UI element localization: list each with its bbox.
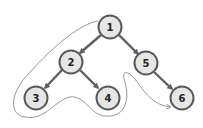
- svg-text:6: 6: [179, 93, 186, 104]
- svg-text:1: 1: [107, 22, 114, 33]
- node-4: 4: [97, 87, 120, 110]
- node-2: 2: [60, 51, 83, 74]
- edge-1-2: [80, 35, 101, 53]
- tree-diagram: 1 2 3 4 5 6: [0, 0, 203, 128]
- node-3: 3: [25, 87, 48, 110]
- edge-5-6: [154, 72, 172, 89]
- edge-1-5: [119, 35, 138, 54]
- svg-text:3: 3: [33, 93, 40, 104]
- node-5: 5: [135, 52, 158, 75]
- svg-text:2: 2: [68, 57, 75, 68]
- svg-text:4: 4: [105, 93, 112, 104]
- node-1: 1: [99, 16, 122, 39]
- svg-text:5: 5: [143, 58, 150, 69]
- node-6: 6: [171, 87, 194, 110]
- edge-2-4: [80, 70, 98, 88]
- edge-2-3: [45, 70, 62, 88]
